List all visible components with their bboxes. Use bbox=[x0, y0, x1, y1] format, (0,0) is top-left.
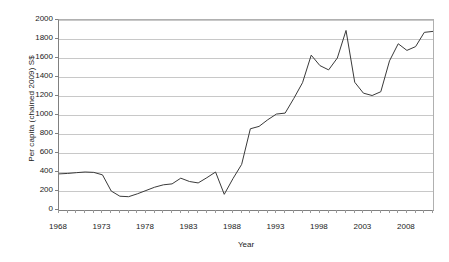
x-tick-mark bbox=[371, 210, 372, 213]
x-tick-mark bbox=[197, 210, 198, 213]
x-tick-mark bbox=[241, 210, 242, 213]
x-tick-mark bbox=[397, 210, 398, 213]
x-tick-mark bbox=[389, 210, 390, 213]
x-tick-label: 1973 bbox=[81, 222, 121, 231]
x-tick-mark bbox=[67, 210, 68, 213]
x-tick-mark bbox=[119, 210, 120, 213]
x-tick-label: 1988 bbox=[212, 222, 252, 231]
x-tick-mark bbox=[354, 210, 355, 213]
x-tick-mark bbox=[154, 210, 155, 213]
x-tick-mark bbox=[302, 210, 303, 213]
x-tick-mark bbox=[128, 210, 129, 213]
x-tick-mark bbox=[380, 210, 381, 213]
x-axis-title: Year bbox=[58, 240, 434, 249]
x-axis-tick-labels: 196819731978198319881993199820032008 bbox=[0, 0, 449, 262]
x-tick-mark bbox=[362, 210, 363, 213]
x-tick-label: 2008 bbox=[386, 222, 426, 231]
x-tick-label: 2003 bbox=[342, 222, 382, 231]
x-tick-label: 1993 bbox=[255, 222, 295, 231]
x-tick-mark bbox=[93, 210, 94, 213]
x-tick-mark bbox=[284, 210, 285, 213]
x-tick-mark bbox=[101, 210, 102, 213]
x-tick-label: 1968 bbox=[38, 222, 78, 231]
x-tick-mark bbox=[84, 210, 85, 213]
x-tick-mark bbox=[110, 210, 111, 213]
x-tick-mark bbox=[232, 210, 233, 213]
x-tick-mark bbox=[223, 210, 224, 213]
x-tick-mark bbox=[415, 210, 416, 213]
x-tick-mark bbox=[145, 210, 146, 213]
x-tick-mark bbox=[319, 210, 320, 213]
x-tick-mark bbox=[206, 210, 207, 213]
x-tick-mark bbox=[336, 210, 337, 213]
x-tick-mark bbox=[171, 210, 172, 213]
chart-container: Per capita (chained 2009) S$ 02004006008… bbox=[0, 0, 449, 262]
x-tick-mark bbox=[180, 210, 181, 213]
x-tick-mark bbox=[75, 210, 76, 213]
x-tick-mark bbox=[215, 210, 216, 213]
x-tick-mark bbox=[293, 210, 294, 213]
x-tick-mark bbox=[310, 210, 311, 213]
x-tick-mark bbox=[406, 210, 407, 213]
x-tick-mark bbox=[162, 210, 163, 213]
x-tick-mark bbox=[275, 210, 276, 213]
x-tick-label: 1998 bbox=[299, 222, 339, 231]
x-tick-mark bbox=[136, 210, 137, 213]
x-tick-mark bbox=[328, 210, 329, 213]
x-tick-mark bbox=[432, 210, 433, 213]
x-tick-mark bbox=[188, 210, 189, 213]
x-tick-mark bbox=[267, 210, 268, 213]
x-tick-mark bbox=[249, 210, 250, 213]
x-tick-mark bbox=[258, 210, 259, 213]
x-tick-mark bbox=[345, 210, 346, 213]
x-tick-mark bbox=[58, 210, 59, 213]
x-tick-mark bbox=[423, 210, 424, 213]
x-tick-label: 1978 bbox=[125, 222, 165, 231]
x-tick-label: 1983 bbox=[168, 222, 208, 231]
